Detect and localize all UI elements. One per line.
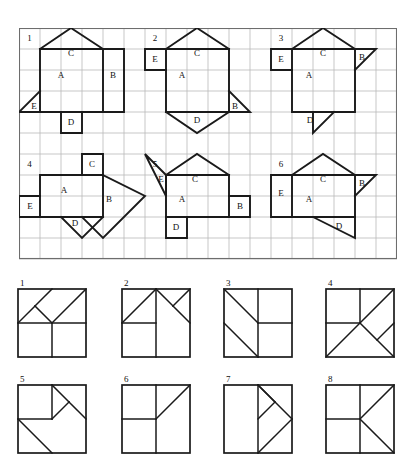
- option-1-lines: [18, 289, 86, 357]
- option-3-number: 3: [226, 278, 231, 288]
- pattern-6-label-E: E: [278, 188, 284, 198]
- option-1-number: 1: [20, 278, 25, 288]
- option-5-number: 5: [20, 374, 25, 384]
- pattern-2-label-B: B: [232, 101, 238, 111]
- pattern-2-label-D: D: [194, 115, 201, 125]
- pattern-5-label-B: B: [237, 201, 243, 211]
- pattern-6-label-D: D: [336, 221, 343, 231]
- option-1[interactable]: 1: [16, 278, 96, 368]
- pattern-1-number: 1: [27, 33, 32, 43]
- pattern-2-label-C: C: [194, 48, 200, 58]
- option-8-number: 8: [328, 374, 333, 384]
- pattern-5-label-C: C: [192, 174, 198, 184]
- answer-options: 1 2: [0, 278, 409, 459]
- option-2-number: 2: [124, 278, 129, 288]
- pattern-2: 2 C A E D B: [145, 28, 250, 133]
- option-7-number: 7: [226, 374, 231, 384]
- pattern-4-label-E: E: [27, 201, 33, 211]
- option-6[interactable]: 6: [120, 374, 200, 459]
- option-3-lines: [224, 289, 292, 357]
- pattern-1-label-D: D: [68, 117, 75, 127]
- pattern-1-label-B: B: [110, 70, 116, 80]
- pattern-5-number: 5: [153, 159, 158, 169]
- pattern-4-label-B: B: [106, 194, 112, 204]
- option-8[interactable]: 8: [324, 374, 404, 459]
- pattern-5-label-E: E: [158, 174, 164, 184]
- option-7[interactable]: 7: [222, 374, 302, 459]
- pattern-2-label-E: E: [152, 54, 158, 64]
- pattern-2-label-A: A: [179, 70, 186, 80]
- option-5[interactable]: 5: [16, 374, 96, 459]
- pattern-4-label-A: A: [61, 185, 68, 195]
- pattern-6-number: 6: [279, 159, 284, 169]
- option-2-lines: [122, 289, 190, 357]
- option-4-number: 4: [328, 278, 333, 288]
- pattern-6-label-B: B: [359, 178, 365, 188]
- pattern-2-number: 2: [153, 33, 158, 43]
- option-4[interactable]: 4: [324, 278, 404, 368]
- option-3[interactable]: 3: [222, 278, 302, 368]
- pattern-5-label-A: A: [179, 194, 186, 204]
- pattern-6-label-C: C: [320, 174, 326, 184]
- pattern-3: 3 C A E B D: [271, 28, 376, 133]
- option-6-number: 6: [124, 374, 129, 384]
- option-2[interactable]: 2: [120, 278, 200, 368]
- pattern-3-label-A: A: [306, 70, 313, 80]
- option-4-lines: [326, 289, 394, 357]
- pattern-3-label-E: E: [278, 54, 284, 64]
- option-6-lines: [122, 385, 190, 453]
- pattern-4-number: 4: [27, 159, 32, 169]
- pattern-3-label-D: D: [307, 115, 314, 125]
- pattern-grid: 1 C A B D E 2 C A E D B: [19, 28, 397, 264]
- pattern-1-label-E: E: [31, 101, 37, 111]
- scan-artifact: [0, 0, 409, 10]
- pattern-4-label-D: D: [72, 218, 79, 228]
- pattern-1-label-A: A: [58, 70, 65, 80]
- option-8-lines: [326, 385, 394, 453]
- pattern-4-label-C: C: [89, 159, 95, 169]
- pattern-5-label-D: D: [173, 222, 180, 232]
- pattern-1: 1 C A B D E: [19, 28, 124, 133]
- pattern-3-number: 3: [279, 33, 284, 43]
- option-5-lines: [18, 385, 86, 453]
- pattern-3-label-B: B: [359, 52, 365, 62]
- pattern-1-label-C: C: [68, 48, 74, 58]
- pattern-6-label-A: A: [306, 194, 313, 204]
- pattern-3-label-C: C: [320, 48, 326, 58]
- option-7-lines: [258, 385, 292, 453]
